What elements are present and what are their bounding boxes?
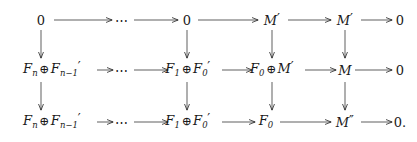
- module-node: F0: [259, 114, 274, 129]
- module-node: M′: [264, 14, 280, 27]
- zero-object-node: 0: [37, 14, 45, 27]
- module-node: M: [338, 64, 351, 77]
- zero-object-node: 0: [396, 64, 404, 77]
- zero-object-node: 0: [396, 14, 404, 27]
- ellipsis-node: ⋯: [115, 13, 130, 28]
- direct-sum-node: F1⊕F0′: [165, 62, 210, 77]
- direct-sum-node: Fn⊕Fn−1′: [23, 62, 81, 77]
- ellipsis-node: ⋯: [115, 63, 130, 78]
- commutative-diagram: 0⋯0M′M′0Fn⊕Fn−1′⋯F1⊕F0′F0⊕M′M0Fn⊕Fn−1′⋯F…: [0, 0, 417, 142]
- module-node: M″: [336, 116, 354, 129]
- ellipsis-node: ⋯: [115, 115, 130, 130]
- zero-object-node: 0: [183, 14, 191, 27]
- direct-sum-node: F0⊕M′: [250, 62, 294, 77]
- direct-sum-node: F1⊕F0′: [165, 114, 210, 129]
- direct-sum-node: Fn⊕Fn−1′: [23, 114, 81, 129]
- zero-object-node: 0.: [394, 116, 407, 129]
- module-node: M′: [337, 14, 353, 27]
